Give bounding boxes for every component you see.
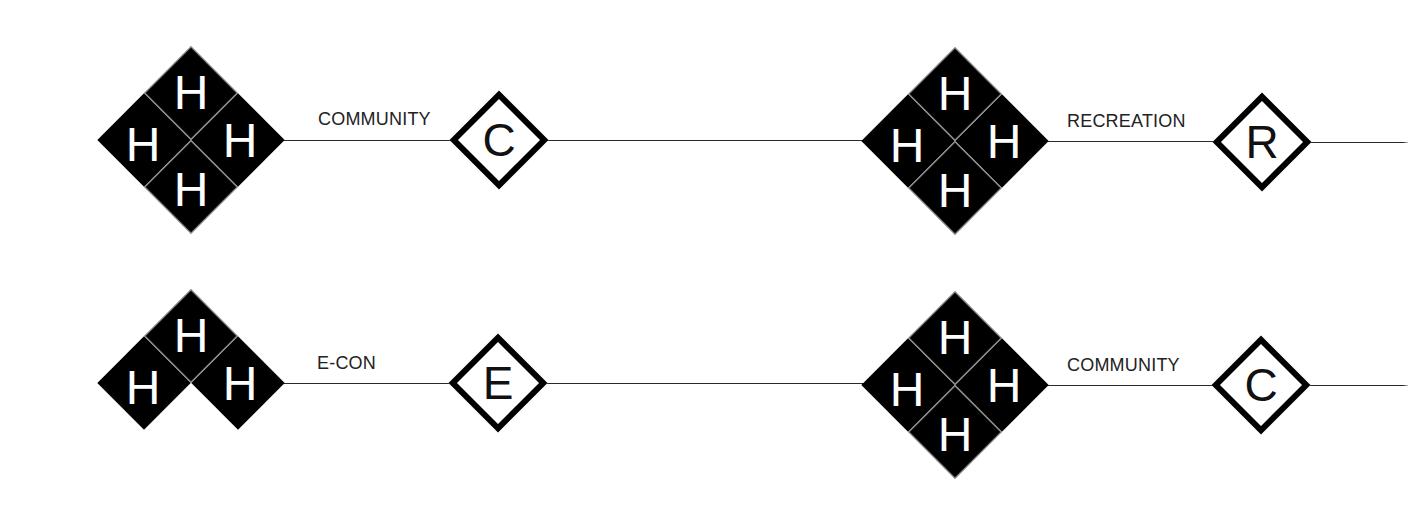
node-letter-c: C	[1226, 350, 1296, 420]
node-letter-e: E	[463, 348, 533, 418]
hub-letter-left: H	[113, 358, 173, 418]
hub-letter-bottom: H	[925, 405, 985, 465]
connector-line-hub1-to-community	[284, 140, 452, 142]
connector-line-hub2-to-recreation	[1046, 141, 1216, 143]
edge-label-recreation: RECREATION	[1067, 112, 1186, 130]
node-diamond-e: E	[463, 348, 533, 418]
connector-line-community-to-edge	[1308, 385, 1408, 387]
hub-letter-bottom: H	[925, 161, 985, 221]
edge-label-e-con: E-CON	[317, 354, 376, 372]
connector-line-hub4-to-community	[1046, 385, 1216, 387]
connector-line-econ-to-hub4	[545, 383, 865, 385]
connector-line-recreation-to-edge	[1309, 142, 1408, 144]
node-letter-r: R	[1227, 107, 1297, 177]
hub-letter-right: H	[210, 354, 270, 414]
node-diamond-c: C	[1226, 350, 1296, 420]
node-diamond-r: R	[1227, 107, 1297, 177]
hub-letter-bottom: H	[161, 160, 221, 220]
edge-label-community: COMMUNITY	[318, 110, 431, 128]
node-diamond-c: C	[464, 105, 534, 175]
node-letter-c: C	[464, 105, 534, 175]
edge-label-community: COMMUNITY	[1067, 356, 1180, 374]
diagram-canvas: H H H H COMMUNITY C H H H H RECREATION R…	[0, 0, 1412, 523]
connector-line-community-to-hub2	[546, 140, 865, 142]
connector-line-hub3-to-econ	[283, 383, 451, 385]
